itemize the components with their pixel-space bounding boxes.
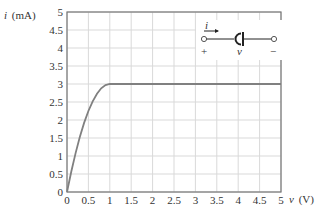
y-tick-labels: 00.511.522.533.544.55 (49, 6, 63, 198)
x-tick-label: 2 (150, 194, 156, 206)
x-tick-label: 0.5 (82, 194, 96, 206)
y-tick-label: 1 (58, 150, 64, 162)
iv-characteristic-chart: 00.511.522.533.544.55 00.511.522.533.544… (0, 0, 322, 217)
y-tick-label: 5 (58, 6, 64, 18)
x-tick-label: 3.5 (210, 194, 224, 206)
circuit-inset: i v + − (196, 19, 286, 60)
current-label: i (205, 19, 208, 31)
x-tick-label: 2.5 (167, 194, 181, 206)
x-tick-label: 3 (193, 194, 199, 206)
y-tick-label: 3.5 (49, 60, 63, 72)
x-tick-label: 4 (235, 194, 241, 206)
terminal-left-icon (201, 36, 206, 41)
x-tick-label: 1 (107, 194, 113, 206)
x-axis-label: v (V) (289, 193, 314, 206)
y-tick-label: 4.5 (49, 24, 63, 36)
y-tick-label: 1.5 (49, 132, 63, 144)
y-tick-label: 3 (58, 78, 64, 90)
x-tick-label: 1.5 (124, 194, 138, 206)
x-axis-unit: (V) (299, 193, 315, 206)
x-axis-var: v (289, 193, 294, 205)
y-axis-var: i (4, 9, 7, 21)
x-tick-label: 4.5 (253, 194, 267, 206)
y-tick-label: 4 (58, 42, 64, 54)
x-tick-label: 0 (64, 194, 70, 206)
terminal-right-icon (271, 36, 276, 41)
y-tick-label: 2.5 (49, 96, 63, 108)
x-tick-labels: 00.511.522.533.544.55 (64, 194, 284, 206)
y-tick-label: 0 (58, 186, 64, 198)
y-tick-label: 2 (58, 114, 64, 126)
minus-label: − (270, 45, 276, 57)
y-axis-unit: (mA) (12, 9, 36, 22)
y-axis-label: i (mA) (4, 9, 36, 22)
plus-label: + (201, 45, 207, 57)
voltage-label: v (237, 45, 242, 57)
y-tick-label: 0.5 (49, 168, 63, 180)
x-tick-label: 5 (278, 194, 284, 206)
